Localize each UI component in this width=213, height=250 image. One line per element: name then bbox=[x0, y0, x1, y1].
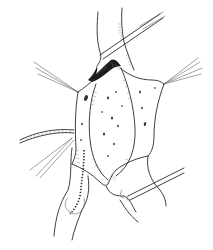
inner-field bbox=[89, 68, 135, 180]
stay-suture-lower-left bbox=[30, 138, 74, 178]
lateral-flaps bbox=[80, 87, 156, 141]
stay-suture-upper-left bbox=[34, 62, 78, 92]
stay-suture-right bbox=[164, 58, 202, 84]
retractor-icon bbox=[120, 168, 184, 200]
lower-right-vessel bbox=[106, 156, 166, 222]
forceps-icon bbox=[100, 12, 165, 59]
upper-apex bbox=[88, 59, 121, 82]
lower-left-vessel bbox=[54, 148, 89, 240]
illustration-drawing bbox=[0, 0, 213, 250]
surgical-illustration bbox=[0, 0, 213, 250]
opening-frame bbox=[72, 62, 164, 185]
suture-thread bbox=[20, 129, 74, 143]
